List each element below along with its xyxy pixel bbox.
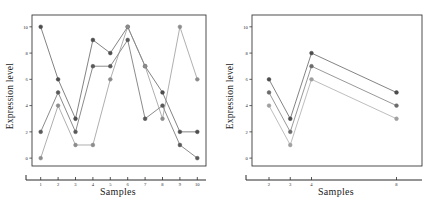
plot-area-right: 02468102348 bbox=[216, 0, 432, 210]
data-point-marker bbox=[288, 143, 292, 147]
y-tick-label: 2 bbox=[26, 130, 29, 135]
data-point-marker bbox=[74, 117, 78, 121]
series-line bbox=[269, 66, 397, 132]
data-point-marker bbox=[195, 156, 199, 160]
data-point-marker bbox=[74, 143, 78, 147]
data-point-marker bbox=[56, 91, 60, 95]
data-point-marker bbox=[288, 117, 292, 121]
data-point-marker bbox=[195, 77, 199, 81]
y-tick-label: 8 bbox=[26, 51, 29, 56]
data-point-marker bbox=[39, 130, 43, 134]
data-point-marker bbox=[395, 104, 399, 108]
data-point-marker bbox=[178, 130, 182, 134]
data-point-marker bbox=[108, 51, 112, 55]
series-line bbox=[269, 79, 397, 145]
data-point-marker bbox=[195, 130, 199, 134]
data-point-marker bbox=[395, 91, 399, 95]
data-point-marker bbox=[91, 143, 95, 147]
data-point-marker bbox=[91, 64, 95, 68]
data-point-marker bbox=[267, 91, 271, 95]
chart-panel-right: Expression level 02468102348 Samples bbox=[216, 0, 432, 210]
y-tick-label: 0 bbox=[246, 156, 249, 161]
y-tick-label: 4 bbox=[246, 103, 249, 108]
data-point-marker bbox=[161, 117, 165, 121]
data-point-marker bbox=[178, 143, 182, 147]
y-tick-label: 0 bbox=[26, 156, 29, 161]
data-point-marker bbox=[395, 117, 399, 121]
data-point-marker bbox=[267, 104, 271, 108]
data-point-marker bbox=[56, 104, 60, 108]
figure-container: Expression level 024681012345678910 Samp… bbox=[0, 0, 432, 210]
y-tick-label: 6 bbox=[246, 77, 249, 82]
data-point-marker bbox=[161, 104, 165, 108]
y-tick-label: 8 bbox=[246, 51, 249, 56]
data-point-marker bbox=[288, 130, 292, 134]
data-point-marker bbox=[143, 117, 147, 121]
data-point-marker bbox=[91, 38, 95, 42]
data-point-marker bbox=[126, 38, 130, 42]
data-point-marker bbox=[56, 77, 60, 81]
data-point-marker bbox=[39, 25, 43, 29]
series-line bbox=[269, 53, 397, 119]
plot-area-left: 024681012345678910 bbox=[0, 0, 216, 210]
data-point-marker bbox=[267, 77, 271, 81]
data-point-marker bbox=[39, 156, 43, 160]
data-point-marker bbox=[74, 130, 78, 134]
y-tick-label: 6 bbox=[26, 77, 29, 82]
y-tick-label: 10 bbox=[243, 25, 248, 30]
data-point-marker bbox=[108, 64, 112, 68]
y-tick-label: 2 bbox=[246, 130, 249, 135]
data-point-marker bbox=[108, 77, 112, 81]
data-point-marker bbox=[161, 91, 165, 95]
data-point-marker bbox=[178, 25, 182, 29]
y-tick-label: 4 bbox=[26, 103, 29, 108]
y-tick-label: 10 bbox=[23, 25, 28, 30]
chart-panel-left: Expression level 024681012345678910 Samp… bbox=[0, 0, 216, 210]
data-point-marker bbox=[310, 77, 314, 81]
x-axis-label-right: Samples bbox=[246, 186, 426, 197]
x-axis-label-left: Samples bbox=[28, 186, 208, 197]
series-line bbox=[41, 27, 198, 132]
data-point-marker bbox=[310, 51, 314, 55]
data-point-marker bbox=[143, 64, 147, 68]
data-point-marker bbox=[126, 25, 130, 29]
data-point-marker bbox=[310, 64, 314, 68]
